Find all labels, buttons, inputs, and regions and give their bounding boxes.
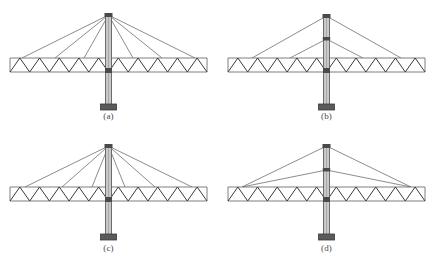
panel-d: (d) — [218, 132, 435, 264]
cable-right-mid — [109, 146, 156, 187]
cable-right-mid — [109, 15, 163, 58]
cable-right-upper — [327, 16, 402, 58]
panel-a: (a) — [0, 0, 217, 132]
pylon-top-node — [323, 144, 331, 148]
cable-left-mid — [55, 15, 109, 58]
pylon-top-node — [105, 13, 113, 17]
panel-caption-d: (d) — [218, 243, 435, 253]
pylon-footing — [101, 104, 117, 110]
figure-root: (a) — [0, 0, 435, 264]
panel-caption-b: (b) — [218, 111, 435, 121]
pylon-deck-node — [323, 68, 330, 73]
cable-left-mid — [62, 146, 109, 187]
pylon-top-node — [323, 14, 331, 18]
pylon-deck-node — [105, 197, 112, 202]
cable-left-outer — [22, 15, 109, 58]
pylon-deck-node — [323, 197, 330, 202]
cable-left-upper — [252, 16, 327, 58]
panel-caption-c: (c) — [0, 243, 217, 253]
pylon-deck-node — [105, 68, 112, 73]
pylon-footing — [101, 234, 117, 240]
cable-right-lower — [327, 39, 364, 58]
cable-right-upper — [327, 146, 412, 187]
cable-right-outer — [109, 146, 193, 187]
cable-right-lower — [327, 170, 412, 187]
panel-b: (b) — [218, 0, 435, 132]
panel-c: (c) — [0, 132, 217, 264]
pylon-mid-node — [323, 37, 330, 41]
pylon-footing — [319, 234, 335, 240]
cable-left-upper — [242, 146, 327, 187]
pylon-top-node — [105, 144, 113, 148]
cable-right-outer — [109, 15, 196, 58]
pylon-mid-node — [323, 168, 330, 172]
cable-left-lower — [242, 170, 327, 187]
panel-caption-a: (a) — [0, 111, 217, 121]
pylon-footing — [319, 104, 335, 110]
cable-left-outer — [25, 146, 109, 187]
cable-left-lower — [290, 39, 327, 58]
